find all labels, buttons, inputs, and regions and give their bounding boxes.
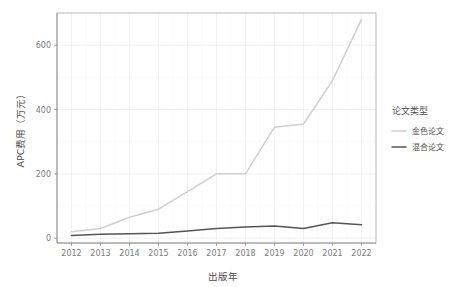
x-tick-label: 2014 <box>119 249 139 258</box>
x-tick-label: 2015 <box>148 249 168 258</box>
legend-label-hybrid: 混合论文 <box>412 142 444 152</box>
x-tick-label: 2022 <box>351 249 371 258</box>
y-axis-title: APC费用（万元） <box>15 89 26 168</box>
legend-title: 论文类型 <box>392 105 428 116</box>
legend-label-gold: 金色论文 <box>412 126 444 136</box>
x-tick-label: 2012 <box>61 249 81 258</box>
x-tick-label: 2013 <box>90 249 110 258</box>
chart-container: 0200400600 20122013201420152016201720182… <box>0 0 475 287</box>
x-tick-label: 2019 <box>264 249 284 258</box>
y-tick-label: 0 <box>46 234 51 243</box>
x-tick-label: 2018 <box>235 249 255 258</box>
x-tick-label: 2020 <box>293 249 313 258</box>
y-tick-label: 200 <box>36 170 51 179</box>
x-tick-label: 2021 <box>322 249 342 258</box>
x-tick-label: 2017 <box>206 249 226 258</box>
x-tick-label: 2016 <box>177 249 197 258</box>
line-chart: 0200400600 20122013201420152016201720182… <box>0 0 475 287</box>
x-axis-title: 出版年 <box>208 271 238 282</box>
y-tick-label: 400 <box>36 106 51 115</box>
y-tick-label: 600 <box>36 41 51 50</box>
